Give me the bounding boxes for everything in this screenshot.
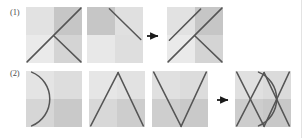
quadrant-top-left: [235, 71, 263, 99]
quadrant-bottom-right: [115, 35, 143, 63]
row-label-2: (2): [10, 69, 19, 78]
quadrant-top-right: [54, 71, 82, 99]
figure-canvas: [0, 0, 306, 138]
figure-container: (1) (2): [0, 0, 306, 138]
right-edge-divider: [301, 0, 302, 138]
quadrant-bottom-right: [54, 99, 82, 127]
quadrant-top-right: [115, 7, 143, 35]
quadrant-top-left: [26, 7, 54, 35]
quadrant-top-right: [117, 71, 145, 99]
quadrant-top-left: [152, 71, 180, 99]
quadrant-bottom-left: [152, 99, 180, 127]
quadrant-bottom-left: [87, 35, 115, 63]
panel-1-3: [167, 7, 223, 63]
quadrant-bottom-right: [180, 99, 208, 127]
quadrant-top-left: [167, 7, 195, 35]
panel-2-3: [152, 71, 208, 127]
quadrant-bottom-right: [117, 99, 145, 127]
quadrant-top-left: [89, 71, 117, 99]
row-label-1: (1): [10, 8, 19, 17]
panel-2-1: [26, 71, 82, 127]
quadrant-top-right: [180, 71, 208, 99]
panel-1-2: [87, 7, 143, 63]
panel-2-4: [235, 71, 291, 127]
panel-1-1: [26, 7, 82, 63]
panel-2-2: [89, 71, 145, 127]
quadrant-top-left: [87, 7, 115, 35]
